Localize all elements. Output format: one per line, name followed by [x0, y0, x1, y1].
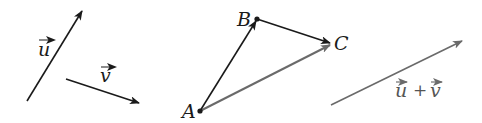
- point-c-label: C: [334, 32, 349, 54]
- point-a-dot: [197, 108, 202, 113]
- vector-bc-arrow: [257, 19, 330, 43]
- vector-ac-arrow: [200, 45, 330, 111]
- point-b-label: B: [236, 8, 251, 30]
- vector-u-label: u: [38, 38, 50, 60]
- triangle-abc: A B C: [180, 8, 349, 122]
- vector-v: v: [66, 64, 139, 103]
- vector-sum-label-plus: +: [413, 80, 427, 100]
- vector-u: u: [27, 11, 82, 101]
- point-a-label: A: [180, 100, 196, 122]
- vector-addition-diagram: u v A B C u + v: [0, 0, 482, 123]
- vector-sum: u + v: [331, 41, 462, 105]
- vector-u-arrow: [27, 11, 82, 101]
- point-b-dot: [254, 16, 259, 21]
